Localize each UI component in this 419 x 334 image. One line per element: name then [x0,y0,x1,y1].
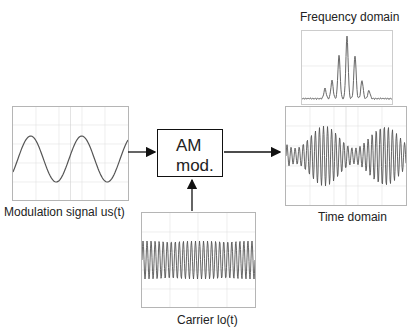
signal-flow-arrows [0,0,419,334]
